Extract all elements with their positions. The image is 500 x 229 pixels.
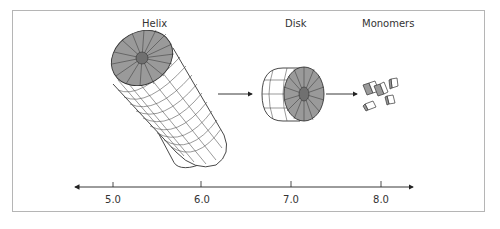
axis-tick-label: 8.0 xyxy=(373,194,389,205)
helix-body xyxy=(101,19,226,166)
disk xyxy=(262,67,324,121)
ph-axis xyxy=(75,181,413,187)
diagram-graphic xyxy=(0,0,500,229)
axis-tick-label: 6.0 xyxy=(194,194,210,205)
axis-tick-label: 5.0 xyxy=(105,194,121,205)
axis-tick-label: 7.0 xyxy=(283,194,299,205)
monomers xyxy=(363,78,398,111)
